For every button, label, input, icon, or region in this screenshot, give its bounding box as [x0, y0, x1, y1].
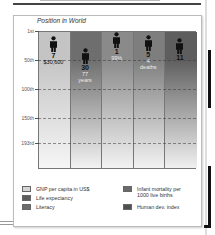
rank-value: 1	[101, 48, 132, 55]
legend-swatch	[22, 195, 31, 201]
y-tick-label: 193rd	[14, 140, 34, 146]
metric-value: 99%	[101, 55, 132, 61]
person-icon	[101, 32, 132, 48]
person-icon	[70, 48, 101, 64]
scroll-marker-top	[208, 50, 211, 108]
legend-swatch	[123, 186, 132, 192]
legend-swatch	[123, 204, 132, 210]
chart-title: Position in World	[37, 17, 86, 24]
legend-label: Human dev. index	[137, 204, 179, 211]
rank-marker: 11	[164, 38, 195, 61]
person-icon	[164, 38, 195, 54]
rank-value: 11	[164, 54, 195, 61]
gridline	[38, 89, 196, 90]
rank-value: 30	[70, 64, 101, 71]
legend-label: Literacy	[36, 204, 55, 211]
gridline	[38, 143, 196, 144]
legend-swatch	[22, 204, 31, 210]
metric-unit: deaths	[133, 64, 164, 70]
scroll-marker-foot	[204, 225, 211, 228]
metric-unit: years	[70, 77, 101, 83]
y-tick-label: 50th	[14, 57, 34, 63]
y-tick-label: 100th	[14, 86, 34, 92]
page-edge	[205, 0, 207, 235]
legend-label: Life expectancy	[36, 195, 73, 202]
legend-label: GNP per capita in US$	[36, 186, 90, 193]
legend-label: Infant mortality per1000 live births	[137, 186, 181, 199]
y-tick-label: 150th	[14, 115, 34, 121]
rank-marker: 7$30,600	[38, 36, 69, 65]
gridline	[38, 118, 196, 119]
scroll-marker-bottom	[208, 166, 211, 228]
page-left-rule	[0, 221, 14, 222]
legend-swatch	[22, 186, 31, 192]
rank-value: 7	[38, 52, 69, 59]
rank-value: 5	[133, 51, 164, 58]
y-tick-label: 1st	[14, 28, 34, 34]
metric-value: $30,600	[38, 59, 69, 65]
person-icon	[133, 35, 164, 51]
y-tick-mark	[35, 31, 39, 32]
page-left-rule-2	[0, 224, 14, 225]
page-rule	[13, 3, 201, 5]
person-icon	[38, 36, 69, 52]
rank-marker: 3077years	[70, 48, 101, 83]
rank-marker: 54deaths	[133, 35, 164, 70]
page-faint-line	[40, 0, 160, 1]
rank-marker: 199%	[101, 32, 132, 61]
